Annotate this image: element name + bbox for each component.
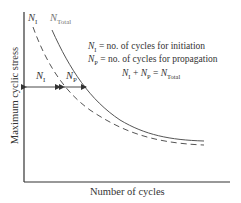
fatigue-diagram xyxy=(0,0,241,203)
label-sub: Total xyxy=(57,18,71,26)
equation: NI + NP = NTotal xyxy=(122,68,180,80)
legend-propagation: NP = no. of cycles for propagation xyxy=(88,54,218,66)
legend-text: = no. of cycles for propagation xyxy=(98,54,218,64)
legend-initiation: NI = no. of cycles for initiation xyxy=(88,41,205,53)
label-main: N xyxy=(36,70,43,81)
label-main: N xyxy=(28,12,35,23)
label-sub: I xyxy=(35,18,37,26)
label-main: N xyxy=(66,70,73,81)
label-sub: I xyxy=(43,76,45,84)
eq-plus: + xyxy=(131,68,141,78)
legend-text: = no. of cycles for initiation xyxy=(97,41,206,51)
label-sub: P xyxy=(73,76,77,84)
n-i-arrow-label: NI xyxy=(36,70,45,84)
eq-c-sub: Total xyxy=(167,73,180,80)
initiation-curve-label: NI xyxy=(28,12,37,26)
n-p-arrow-label: NP xyxy=(66,70,77,84)
x-axis-label: Number of cycles xyxy=(90,186,165,197)
y-axis-label: Maximum cyclic stress xyxy=(9,26,20,166)
eq-equals: = xyxy=(151,68,161,78)
total-curve-label: NTotal xyxy=(50,12,71,26)
label-main: N xyxy=(50,12,57,23)
